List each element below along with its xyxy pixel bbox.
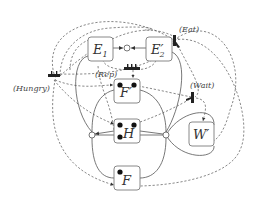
solid-arcs — [76, 48, 214, 178]
place-w-prime-label: W′ — [193, 127, 209, 142]
token — [131, 82, 136, 87]
transition-eat[interactable]: (Eat) — [173, 25, 199, 48]
place-f-label: F — [121, 173, 132, 188]
petri-net-diagram: E1 E′2 F′ H F W′ (Eat) (Rep) — [0, 0, 260, 197]
transition-hungry-label: (Hungry) — [13, 84, 50, 93]
svg-text:E′2: E′2 — [150, 42, 165, 59]
place-e2-prime[interactable]: E′2 — [146, 37, 172, 61]
junction-right — [163, 132, 169, 138]
place-w-prime[interactable]: W′ — [189, 122, 214, 146]
transition-wait[interactable]: (Wait) — [186, 81, 214, 103]
token — [117, 122, 122, 127]
transition-eat-label: (Eat) — [179, 25, 199, 34]
transition-rep-label: (Rep) — [95, 70, 117, 79]
place-f[interactable]: F — [114, 166, 140, 190]
place-f-prime-label: F′ — [119, 85, 132, 100]
place-e1-label: E — [92, 42, 103, 57]
place-h[interactable]: H — [114, 119, 140, 143]
token — [117, 134, 122, 139]
place-h-label: H — [122, 126, 135, 141]
transition-hungry[interactable]: (Hungry) — [13, 71, 60, 93]
place-e1[interactable]: E1 — [88, 37, 113, 61]
place-f-prime[interactable]: F′ — [114, 79, 140, 103]
transition-wait-label: (Wait) — [190, 81, 214, 90]
junction-left — [89, 132, 95, 138]
junction-e1-e2 — [124, 45, 130, 51]
